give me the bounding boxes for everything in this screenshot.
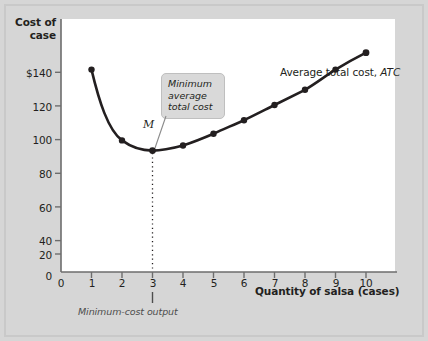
series-label-abbrev: ATC	[380, 66, 400, 78]
x-tick-label-5: 5	[203, 277, 225, 289]
y-axis-title: Cost of case	[8, 16, 56, 41]
y-tick-label-140: $140	[8, 67, 52, 79]
x-tick-label-0: 0	[50, 277, 72, 289]
x-tick-label-1: 1	[81, 277, 103, 289]
x-tick-label-6: 6	[233, 277, 255, 289]
minimum-cost-output-label: Minimum-cost output	[78, 306, 178, 317]
y-tick-label-100: 100	[8, 134, 52, 146]
y-tick-label-60: 60	[8, 202, 52, 214]
y-tick-label-80: 80	[8, 168, 52, 180]
series-label-atc: Average total cost, ATC	[280, 66, 400, 78]
y-tick-label-120: 120	[8, 101, 52, 113]
callout-line-2: average	[168, 90, 207, 101]
y-tick-label-20: 20	[8, 249, 52, 261]
x-tick-label-3: 3	[142, 277, 164, 289]
callout-line-1: Minimum	[168, 78, 212, 89]
y-axis-title-line2: case	[30, 29, 56, 41]
plot-area	[61, 19, 395, 272]
series-label-text: Average total cost,	[280, 66, 380, 78]
callout-line-3: total cost	[168, 101, 212, 112]
y-axis-title-line1: Cost of	[15, 16, 56, 28]
x-tick-label-2: 2	[111, 277, 133, 289]
figure-container: Cost of case $140 120 100 80 60 40 20 0 …	[0, 0, 428, 341]
minimum-point-label: M	[143, 118, 154, 131]
callout-minimum-average-total-cost: Minimum average total cost	[161, 73, 225, 119]
y-tick-label-0: 0	[8, 270, 52, 282]
x-tick-label-4: 4	[172, 277, 194, 289]
x-axis-title: Quantity of salsa (cases)	[255, 285, 400, 297]
y-tick-label-40: 40	[8, 235, 52, 247]
